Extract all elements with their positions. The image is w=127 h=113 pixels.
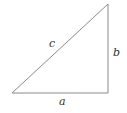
- hypotenuse-label: c: [49, 37, 55, 50]
- vertical-leg-label: b: [113, 46, 120, 59]
- right-triangle-diagram: c b a: [0, 0, 127, 113]
- horizontal-leg-label: a: [59, 95, 66, 108]
- hypotenuse-line: [12, 4, 108, 93]
